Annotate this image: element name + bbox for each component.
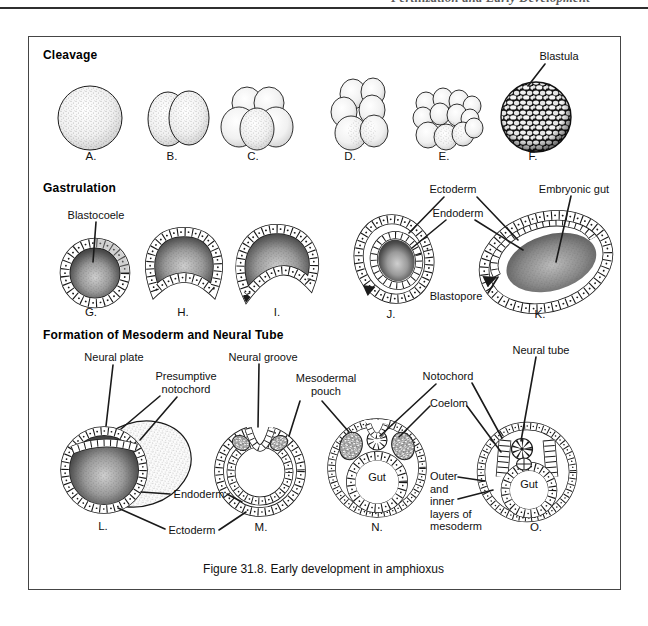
stage-c-drawing [221, 87, 293, 150]
label-coelom: Coelom [430, 397, 468, 410]
label-neural-plate: Neural plate [84, 351, 143, 364]
stage-label-f: F. [529, 150, 538, 162]
stage-i-drawing [240, 229, 313, 295]
stage-a-drawing [58, 86, 122, 150]
scanned-textbook-page: Fertilization and Early Development [0, 0, 648, 626]
section-title-mesoderm-neural-tube: Formation of Mesoderm and Neural Tube [43, 328, 284, 342]
figure-art [0, 0, 648, 626]
stage-label-b: B. [167, 150, 178, 162]
stage-label-l: L. [98, 520, 108, 532]
label-embryonic-gut: Embryonic gut [539, 183, 609, 196]
stage-e-drawing [413, 88, 483, 150]
label-gut-o: Gut [520, 478, 538, 491]
stage-b-drawing [148, 91, 209, 146]
label-neural-tube: Neural tube [513, 344, 570, 357]
stage-label-k: K. [535, 308, 546, 320]
stage-label-m: M. [255, 521, 268, 533]
label-mesodermal-pouch: Mesodermal pouch [296, 372, 357, 397]
stage-label-g: G. [85, 306, 97, 318]
stage-label-i: I. [274, 306, 280, 318]
stage-f-drawing [501, 82, 571, 152]
label-gut-n: Gut [368, 471, 386, 484]
stage-label-e: E. [439, 150, 450, 162]
label-endoderm-mesoderm-row: Endoderm [174, 488, 225, 501]
section-title-cleavage: Cleavage [43, 48, 97, 62]
stage-d-drawing [331, 78, 388, 150]
label-blastocoele: Blastocoele [68, 209, 125, 222]
label-notochord: Notochord [423, 370, 474, 383]
stage-label-n: N. [371, 521, 383, 533]
stage-label-c: C. [247, 150, 259, 162]
label-endoderm-gastrulation: Endoderm [433, 207, 484, 220]
figure-caption: Figure 31.8. Early development in amphio… [28, 562, 619, 576]
label-blastula: Blastula [539, 50, 578, 63]
label-ectoderm-mesoderm-row: Ectoderm [168, 524, 215, 537]
stage-g-drawing [65, 243, 125, 303]
label-ectoderm-gastrulation: Ectoderm [429, 183, 476, 196]
stage-j-drawing [348, 211, 438, 307]
label-mesoderm-layers: Outer and inner layers of mesoderm [430, 470, 482, 533]
label-neural-groove: Neural groove [228, 351, 297, 364]
stage-o-drawing [481, 426, 573, 518]
stage-label-j: J. [387, 308, 396, 320]
stage-m-drawing [219, 424, 301, 512]
stage-label-o: O. [530, 521, 542, 533]
stage-h-drawing [150, 232, 218, 291]
stage-k-drawing [471, 201, 619, 323]
stage-label-a: A. [86, 150, 97, 162]
stage-l-drawing [65, 408, 202, 520]
label-presumptive-notochord: Presumptive notochord [155, 370, 216, 395]
label-blastopore: Blastopore [430, 290, 483, 303]
stage-label-h: H. [177, 306, 189, 318]
stage-n-drawing [332, 420, 423, 514]
section-title-gastrulation: Gastrulation [43, 181, 116, 195]
stage-label-d: D. [344, 150, 356, 162]
